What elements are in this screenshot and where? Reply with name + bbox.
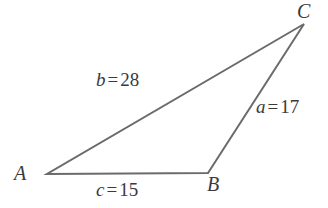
triangle-figure: A B C b=28 a=17 c=15 xyxy=(0,0,328,208)
side-a-value: 17 xyxy=(280,96,299,117)
side-b-equals: = xyxy=(106,69,121,90)
side-label-a: a=17 xyxy=(256,97,299,116)
side-c-equals: = xyxy=(104,179,119,200)
side-a-variable: a xyxy=(256,96,266,117)
side-b-variable: b xyxy=(96,69,106,90)
side-label-b: b=28 xyxy=(96,70,139,89)
side-b-value: 28 xyxy=(120,69,139,90)
side-label-c: c=15 xyxy=(96,180,138,199)
vertex-label-b: B xyxy=(207,174,219,194)
vertex-label-c: C xyxy=(297,1,310,21)
side-c-value: 15 xyxy=(119,179,138,200)
vertex-label-a: A xyxy=(14,163,26,183)
side-a-equals: = xyxy=(266,96,281,117)
